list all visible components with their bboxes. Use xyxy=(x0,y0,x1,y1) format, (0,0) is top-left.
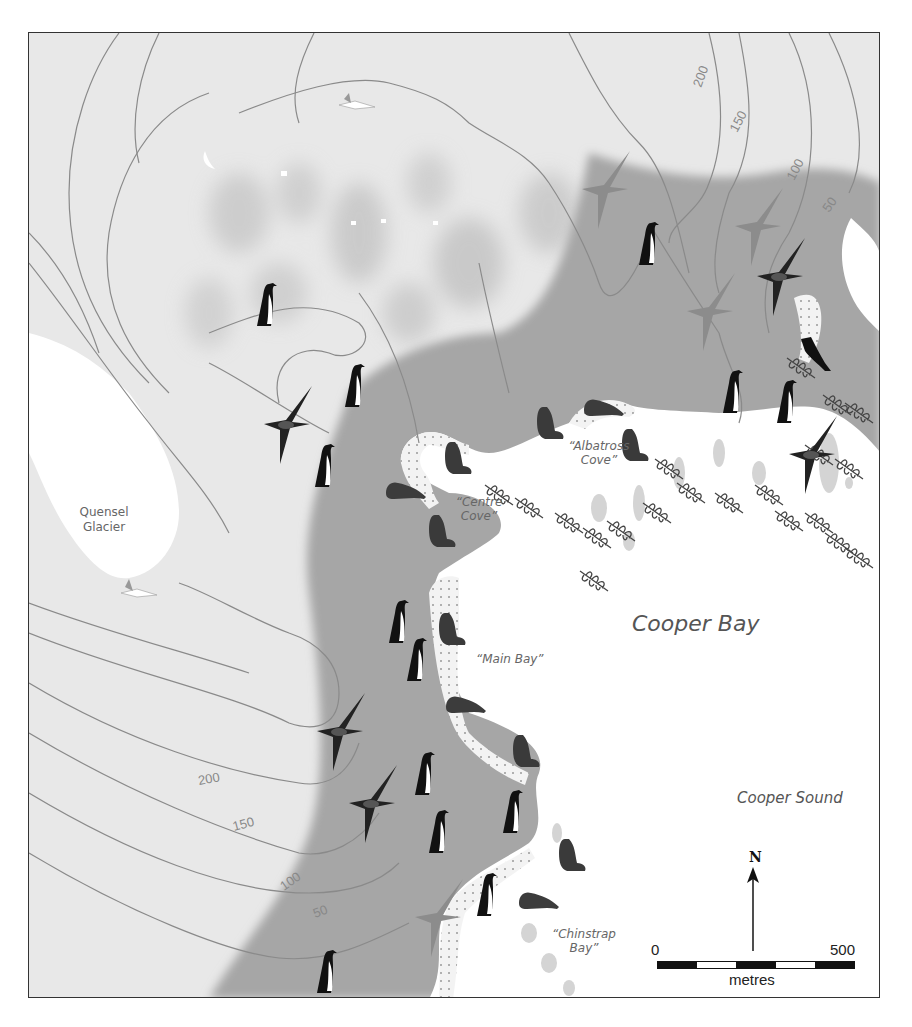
place-label-cooper-sound: Cooper Sound xyxy=(737,789,843,807)
place-label-quensel-glacier: Quensel Glacier xyxy=(69,505,139,535)
place-label-chinstrap-bay: “Chinstrap Bay” xyxy=(549,927,619,955)
place-label-centre-cove: “Centre Cove” xyxy=(449,495,509,523)
scale-start: 0 xyxy=(651,941,659,958)
north-label: N xyxy=(749,849,762,865)
scale-bar xyxy=(657,961,855,969)
north-arrow-icon xyxy=(743,867,763,953)
scale-unit: metres xyxy=(729,971,775,988)
place-label-albatross-cove: “Albatross Cove” xyxy=(559,439,639,467)
map-frame: 200 150 100 50 200 150 100 50 xyxy=(28,32,880,998)
place-label-main-bay: “Main Bay” xyxy=(476,652,544,666)
scale-end: 500 xyxy=(830,941,855,958)
place-label-cooper-bay: Cooper Bay xyxy=(632,611,759,636)
